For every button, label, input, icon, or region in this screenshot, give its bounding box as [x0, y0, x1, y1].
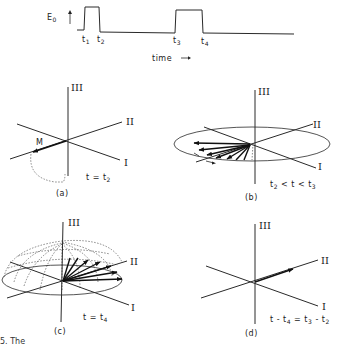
- axis-I: [10, 262, 129, 305]
- time-axis-label: time: [152, 54, 172, 63]
- panel-b-condition: t2 < t < t3: [270, 180, 316, 190]
- axis-II-label: II: [130, 256, 138, 267]
- axis-I: [206, 266, 318, 306]
- panel-d-tag: (d): [245, 329, 258, 338]
- panel-c-condition: t = t4: [83, 313, 108, 323]
- pulse-sequence-plot: E0 t1 t2 t3 t4 time: [47, 7, 294, 63]
- right-arrow-icon: [181, 56, 191, 59]
- panel-b: III II I t2 < t < t3 (b): [174, 86, 330, 202]
- marker-t4: t4: [201, 37, 209, 47]
- axis-II-label: II: [313, 119, 321, 130]
- marker-t1: t1: [82, 35, 90, 45]
- refocusing-vectors: [63, 258, 122, 281]
- axis-I-label: I: [318, 161, 322, 172]
- axis-III-label: III: [68, 217, 80, 228]
- marker-t2: t2: [97, 35, 105, 45]
- vector-m-label: M: [36, 138, 43, 147]
- panel-b-tag: (b): [245, 193, 258, 202]
- panel-a-condition: t = t2: [86, 173, 111, 183]
- axis-I-label: I: [322, 301, 326, 312]
- axis-III-label: III: [259, 220, 271, 231]
- axis-III-label: III: [71, 82, 83, 93]
- axis-I-label: I: [124, 157, 128, 168]
- axis-II: [201, 260, 318, 298]
- panel-c: III II I t = t4 (c): [2, 217, 138, 336]
- axis-III-label: III: [258, 86, 270, 97]
- panel-d-condition: t - t4 = t3 - t2: [270, 315, 330, 325]
- rotation-path: [31, 154, 65, 182]
- panel-a-tag: (a): [56, 189, 69, 198]
- marker-t3: t3: [173, 36, 181, 46]
- axis-II-label: II: [126, 116, 134, 127]
- e0-label: E0: [47, 13, 57, 23]
- pulse-waveform: [77, 7, 294, 34]
- panel-c-tag: (c): [54, 327, 66, 336]
- panel-a: III II I M t = t2 (a): [10, 82, 134, 198]
- nmr-pulse-figure: E0 t1 t2 t3 t4 time III II I M t = t2 (a…: [0, 0, 338, 346]
- axis-I-label: I: [131, 302, 135, 313]
- axis-II-label: II: [321, 255, 329, 266]
- axis-III: [61, 222, 63, 322]
- figure-caption-fragment: 5. The: [0, 337, 25, 346]
- up-arrow-icon: [68, 10, 72, 24]
- echo-vector: [255, 269, 293, 282]
- panel-d: III II I t - t4 = t3 - t2 (d): [201, 220, 330, 338]
